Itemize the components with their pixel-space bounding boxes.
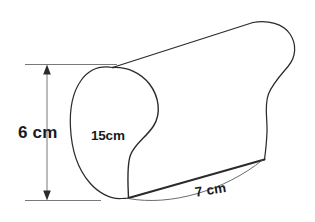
arrow-down-icon (43, 191, 51, 201)
depth-dimension-label: 15cm (91, 129, 125, 143)
figure-canvas (0, 0, 315, 222)
geometry-figure: 6 cm 15cm 7 cm (0, 0, 315, 222)
prism-top-edge (113, 23, 254, 68)
prism-back-cap (253, 22, 295, 160)
height-dimension-label: 6 cm (18, 124, 58, 141)
arrow-up-icon (43, 65, 51, 75)
